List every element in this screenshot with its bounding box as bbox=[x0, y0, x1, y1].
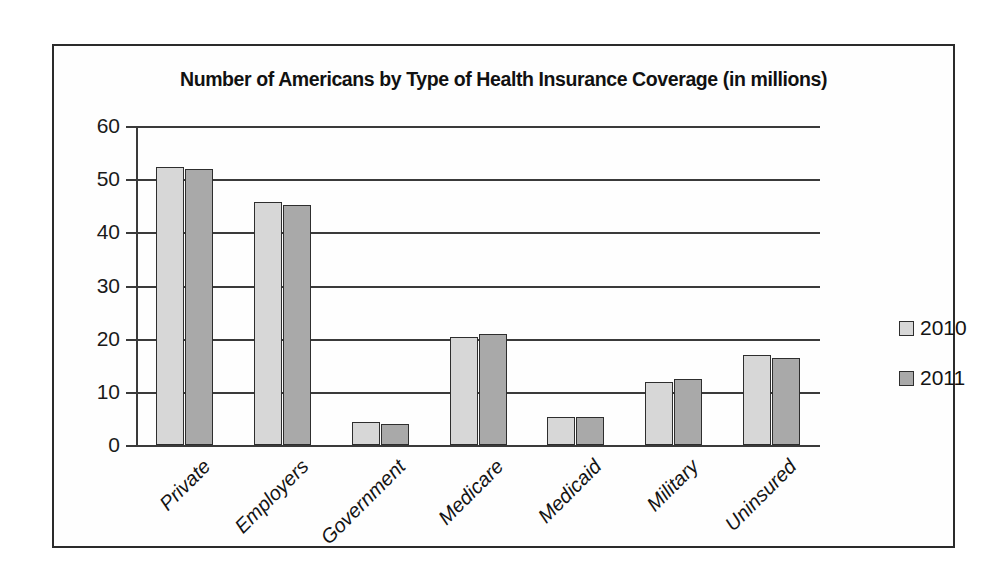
bar[interactable] bbox=[772, 358, 800, 445]
y-axis-tick-label: 30 bbox=[97, 273, 120, 297]
y-axis-tick-label: 50 bbox=[97, 167, 120, 191]
chart-legend: 20102011 bbox=[899, 316, 967, 416]
y-axis-tick bbox=[126, 286, 136, 288]
chart-frame: Number of Americans by Type of Health In… bbox=[52, 44, 955, 548]
chart-title: Number of Americans by Type of Health In… bbox=[54, 68, 953, 91]
y-axis-tick-label: 0 bbox=[108, 433, 120, 457]
x-axis-label-government: Government bbox=[316, 455, 410, 549]
x-axis-label-private: Private bbox=[155, 455, 215, 515]
legend-entry-2010[interactable]: 2010 bbox=[899, 316, 967, 340]
gridline bbox=[136, 445, 820, 447]
y-axis-tick bbox=[126, 126, 136, 128]
legend-label: 2010 bbox=[920, 316, 967, 340]
legend-label: 2011 bbox=[920, 366, 965, 390]
x-axis-label-employers: Employers bbox=[230, 455, 313, 538]
y-axis-tick-label: 10 bbox=[97, 379, 120, 403]
legend-swatch-icon bbox=[899, 371, 914, 386]
y-axis-tick bbox=[126, 232, 136, 234]
x-axis-label-military: Military bbox=[643, 455, 704, 516]
x-axis-label-medicaid: Medicaid bbox=[533, 455, 606, 528]
y-axis-tick bbox=[126, 445, 136, 447]
y-axis-tick bbox=[126, 392, 136, 394]
y-axis-tick-label: 40 bbox=[97, 220, 120, 244]
bar-group bbox=[136, 126, 820, 445]
legend-swatch-icon bbox=[899, 321, 914, 336]
legend-entry-2011[interactable]: 2011 bbox=[899, 366, 967, 390]
x-axis-label-medicare: Medicare bbox=[434, 455, 508, 529]
bar[interactable] bbox=[743, 355, 771, 445]
y-axis-tick bbox=[126, 179, 136, 181]
y-axis-tick bbox=[126, 339, 136, 341]
plot-area: 0102030405060 PrivateEmployersGovernment… bbox=[136, 126, 820, 445]
y-axis-tick-label: 60 bbox=[97, 114, 120, 138]
y-axis-tick-label: 20 bbox=[97, 326, 120, 350]
x-axis-label-uninsured: Uninsured bbox=[721, 455, 802, 536]
